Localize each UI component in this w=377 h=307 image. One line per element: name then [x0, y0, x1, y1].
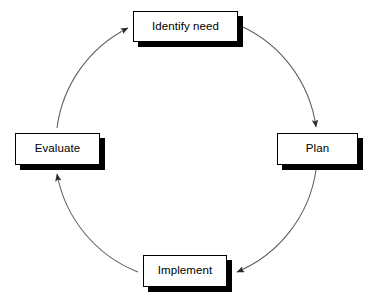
node-identify-need[interactable]: Identify need	[133, 11, 238, 42]
connector-plan-to-implement	[237, 170, 316, 272]
node-evaluate-label: Evaluate	[35, 143, 81, 155]
connector-implement-to-evaluate	[57, 174, 138, 272]
cycle-diagram: Identify need Plan Implement Evaluate	[0, 0, 377, 307]
node-implement[interactable]: Implement	[143, 255, 227, 287]
node-plan[interactable]: Plan	[277, 133, 358, 165]
node-plan-label: Plan	[306, 143, 329, 155]
connector-identify-need-to-plan	[241, 26, 316, 127]
node-implement-label: Implement	[158, 265, 213, 277]
node-evaluate[interactable]: Evaluate	[15, 133, 100, 165]
connector-evaluate-to-identify-need	[57, 28, 128, 128]
node-identify-need-label: Identify need	[152, 21, 219, 33]
